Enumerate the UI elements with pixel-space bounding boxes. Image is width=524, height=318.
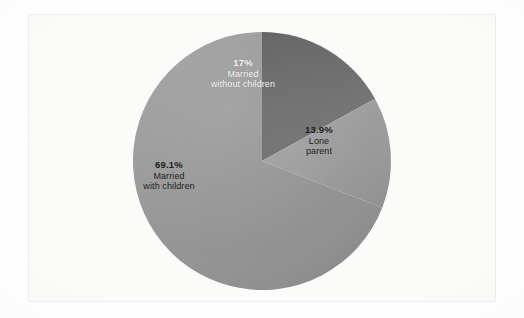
pie-label-text-line2-married-with-children: with children <box>143 181 194 192</box>
pie-label-text-line1-married-without-children: Married <box>211 69 275 80</box>
pie-label-percent-married-without-children: 17% <box>211 57 275 68</box>
pie-label-text-line1-married-with-children: Married <box>143 171 194 182</box>
pie-label-married-without-children: 17% Married without children <box>211 57 275 90</box>
pie-label-percent-married-with-children: 69.1% <box>143 159 194 170</box>
pie-label-text-line1-lone-parent: Lone <box>305 136 333 147</box>
pie-label-married-with-children: 69.1% Married with children <box>143 159 194 192</box>
pie-label-text-line2-married-without-children: without children <box>211 79 275 90</box>
pie-chart: 17% Married without children 13.9% Lone … <box>0 0 524 318</box>
pie-label-text-line2-lone-parent: parent <box>305 146 333 157</box>
figure-root: 17% Married without children 13.9% Lone … <box>0 0 524 318</box>
pie-label-percent-lone-parent: 13.9% <box>305 124 333 135</box>
pie-label-lone-parent: 13.9% Lone parent <box>305 124 333 157</box>
pie-svg <box>0 0 524 318</box>
